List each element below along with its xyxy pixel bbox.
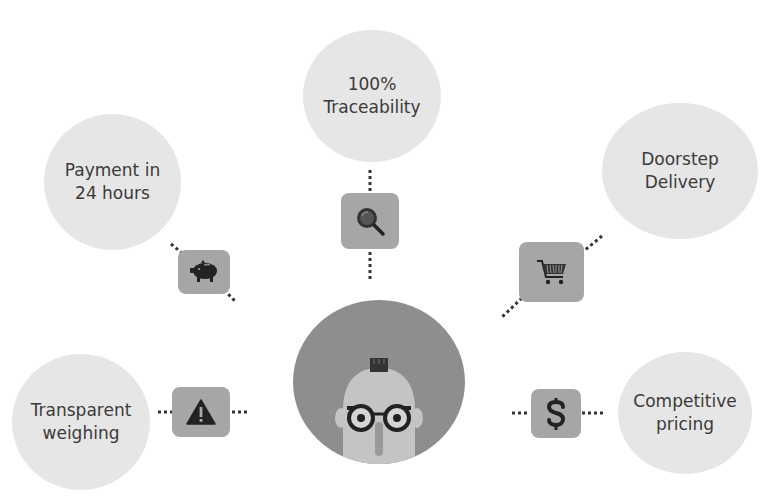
feature-label-line1: Doorstep: [641, 148, 719, 171]
piggy-bank-icon: [187, 259, 221, 285]
feature-bubble-payment: Payment in 24 hours: [44, 114, 181, 250]
feature-label-line1: Payment in: [65, 159, 160, 182]
icon-box-weighing: [172, 387, 230, 437]
icon-box-traceability: [341, 193, 399, 249]
center-avatar: [293, 300, 465, 464]
magnifier-icon: [353, 204, 387, 238]
bald-man-with-glasses-avatar: [293, 300, 465, 464]
feature-bubble-traceability: 100% Traceability: [303, 30, 441, 162]
feature-label-line2: 24 hours: [65, 182, 160, 205]
feature-label-line1: 100%: [323, 73, 420, 96]
feature-bubble-delivery: Doorstep Delivery: [602, 103, 758, 239]
feature-bubble-weighing: Transparent weighing: [12, 354, 150, 490]
feature-label-line2: weighing: [31, 422, 132, 445]
shopping-cart-icon: [535, 257, 569, 287]
warning-icon: [186, 399, 216, 425]
feature-label-line1: Competitive: [633, 390, 736, 413]
feature-label-line2: Traceability: [323, 96, 420, 119]
icon-box-pricing: [531, 389, 581, 438]
icon-box-payment: [178, 250, 230, 294]
feature-label-line2: Delivery: [641, 171, 719, 194]
feature-label-line2: pricing: [633, 413, 736, 436]
dollar-icon: [544, 397, 568, 431]
icon-box-delivery: [519, 242, 584, 302]
feature-bubble-pricing: Competitive pricing: [618, 352, 752, 474]
feature-label-line1: Transparent: [31, 399, 132, 422]
